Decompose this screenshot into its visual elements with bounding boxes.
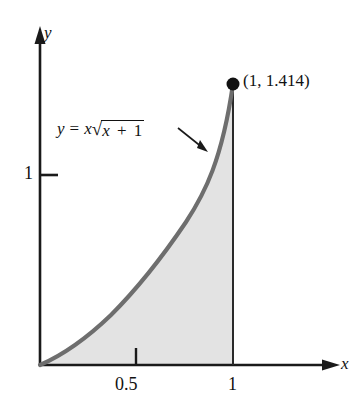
equation-lhs: y <box>57 120 65 137</box>
y-tick-label-1: 1 <box>24 164 33 182</box>
data-point-marker <box>227 78 240 91</box>
x-tick-label-05: 0.5 <box>115 375 138 393</box>
figure-canvas: y x 1 0.5 1 (1, 1.414) y = x √ x + 1 <box>0 0 364 413</box>
equation-radicand: x + 1 <box>101 120 144 139</box>
equation-leader-arrowhead <box>197 140 208 152</box>
radicand-variable: x <box>102 121 110 140</box>
equation-radical: √ x + 1 <box>92 120 145 139</box>
equation-equals-sign: = <box>70 120 80 137</box>
plot-area <box>0 0 364 413</box>
radicand-constant: 1 <box>134 121 143 140</box>
equation-coefficient: x <box>84 120 92 137</box>
x-axis-label: x <box>341 355 349 372</box>
x-axis-arrowhead <box>322 360 340 371</box>
radicand-operator: + <box>114 121 130 140</box>
x-tick-label-1: 1 <box>228 375 237 393</box>
point-coordinate-label: (1, 1.414) <box>243 72 310 89</box>
equation-annotation: y = x √ x + 1 <box>57 120 144 139</box>
y-axis-label: y <box>44 24 52 41</box>
